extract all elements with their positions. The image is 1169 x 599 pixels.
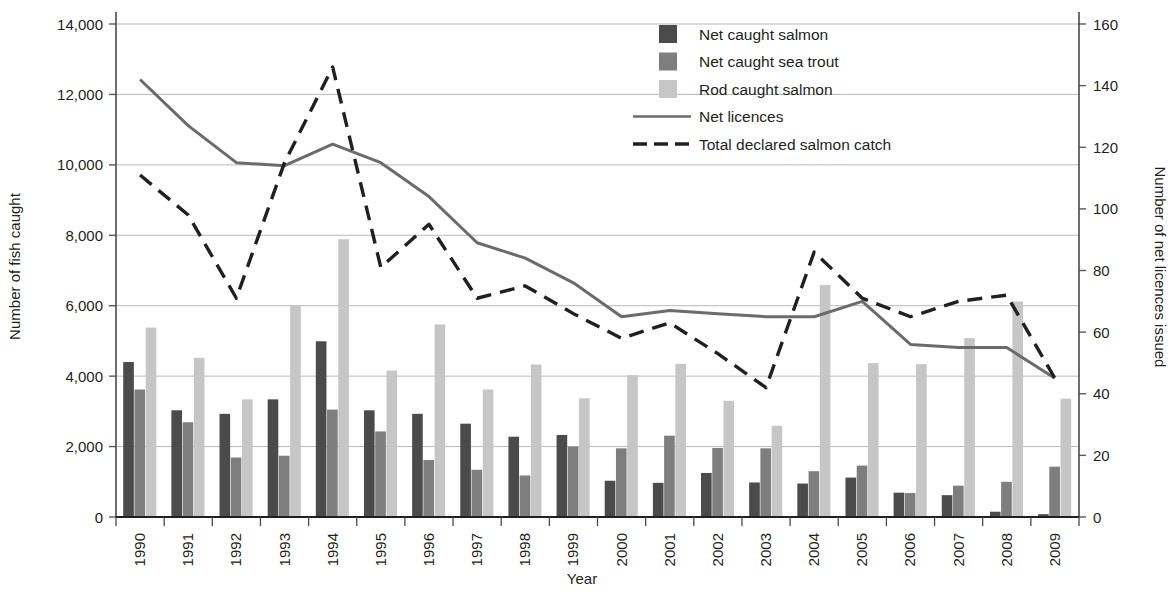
legend-label: Net caught salmon [699,26,828,43]
legend-swatch [659,53,677,71]
x-axis-year-label: 1997 [468,533,485,566]
left-tick-label: 8,000 [65,227,103,244]
bar [1049,467,1060,517]
bar [605,481,616,517]
bar [327,410,338,517]
bar [557,435,568,517]
bar [964,338,975,517]
bar [905,493,916,517]
left-tick-label: 6,000 [65,297,103,314]
axis-lines [116,12,1079,517]
bar [664,436,675,517]
x-axis-ticks [116,517,1079,526]
bar [675,364,686,517]
bar [616,448,627,517]
left-tick-label: 12,000 [57,86,103,103]
bar [231,457,242,517]
left-axis-ticks: 02,0004,0006,0008,00010,00012,00014,000 [57,16,116,526]
x-axis-year-label: 1995 [372,533,389,566]
left-tick-label: 4,000 [65,368,103,385]
x-axis-year-label: 2009 [1046,533,1063,566]
left-tick-label: 2,000 [65,438,103,455]
bar [364,410,375,517]
bar [627,375,638,517]
bar-group [123,239,1071,517]
bar [772,426,783,517]
bar [845,478,856,517]
left-tick-label: 14,000 [57,16,103,33]
right-tick-label: 140 [1093,77,1118,94]
bar [134,390,145,517]
bar [579,398,590,517]
right-axis-ticks: 020406080100120140160 [1079,16,1118,526]
bar [760,448,771,517]
bar [423,460,434,517]
bar [1061,399,1072,517]
legend-swatch [659,25,677,43]
bar [868,363,879,517]
x-axis-year-label: 1992 [227,533,244,566]
legend-label: Net licences [699,108,784,125]
legend-label: Rod caught salmon [699,81,833,98]
right-tick-label: 120 [1093,139,1118,156]
data-line [140,67,1055,387]
right-tick-label: 0 [1093,509,1101,526]
left-tick-label: 10,000 [57,156,103,173]
bar [701,473,712,517]
x-axis-year-label: 2000 [613,533,630,566]
bar [568,447,579,517]
legend-swatch [659,80,677,98]
bar [1001,482,1012,517]
chart-legend: Net caught salmonNet caught sea troutRod… [633,25,891,153]
x-axis-year-label: 2003 [757,533,774,566]
x-axis-year-label: 2007 [950,533,967,566]
x-axis-year-labels: 1990199119921993199419951996199719981999… [131,533,1063,566]
bar [412,414,423,517]
x-axis-year-label: 2008 [998,533,1015,566]
bar [171,410,182,517]
x-axis-year-label: 1993 [276,533,293,566]
right-tick-label: 20 [1093,447,1110,464]
x-axis-year-label: 1991 [179,533,196,566]
bar [435,324,446,517]
bar [749,482,760,517]
bar [916,364,927,517]
bar [146,328,157,517]
bar [460,424,471,517]
right-tick-label: 160 [1093,16,1118,33]
x-axis-year-label: 2002 [709,533,726,566]
x-axis-year-label: 1990 [131,533,148,566]
bar [520,475,531,517]
y-axis-title-right: Number of net licences issued [1152,167,1169,367]
bar [220,414,231,517]
bar [653,483,664,517]
bar [242,399,253,517]
x-axis-title: Year [0,570,1164,587]
right-tick-label: 40 [1093,385,1110,402]
right-tick-label: 60 [1093,324,1110,341]
right-tick-label: 80 [1093,262,1110,279]
bar [508,437,519,517]
bar [483,390,494,517]
x-axis-year-label: 2005 [853,533,870,566]
legend-label: Net caught sea trout [699,53,839,70]
x-axis-year-label: 2001 [661,533,678,566]
data-line [140,79,1055,378]
x-axis-year-label: 1999 [564,533,581,566]
bar [472,470,483,517]
x-axis-year-label: 1994 [324,533,341,566]
bar [797,484,808,517]
left-tick-label: 0 [95,509,103,526]
bar [1012,301,1023,517]
x-axis-year-label: 2004 [805,533,822,566]
bar [809,471,820,517]
bar [194,358,205,517]
bar [386,371,397,517]
bar [123,362,134,517]
right-tick-label: 100 [1093,200,1118,217]
bar [531,365,542,517]
bar [279,456,290,517]
x-axis-year-label: 1996 [420,533,437,566]
y-axis-title-left: Number of fish caught [6,167,23,367]
